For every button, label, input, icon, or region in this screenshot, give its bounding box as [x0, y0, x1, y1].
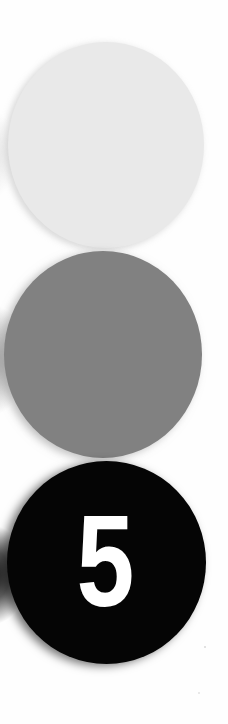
paper-speck [204, 646, 206, 648]
marker-circle-mid [4, 251, 202, 458]
scanned-page: 5 [0, 0, 228, 724]
paper-speck [198, 692, 200, 694]
marker-circle-dark: 5 [7, 461, 206, 664]
chapter-number: 5 [77, 496, 133, 626]
marker-circle-light [8, 42, 204, 248]
